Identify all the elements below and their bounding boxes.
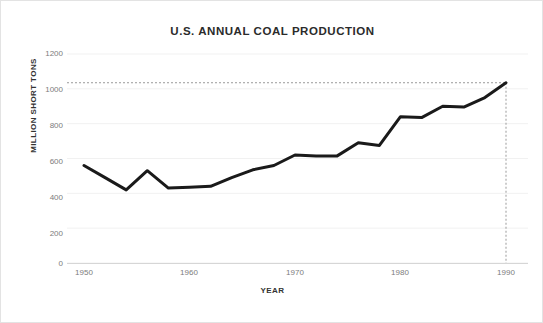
data-line-coal-production <box>84 83 506 190</box>
plot-area <box>1 1 543 323</box>
annotation-layer <box>67 83 506 263</box>
chart-container: U.S. ANNUAL COAL PRODUCTION MILLION SHOR… <box>0 0 543 323</box>
gridlines <box>67 54 528 263</box>
